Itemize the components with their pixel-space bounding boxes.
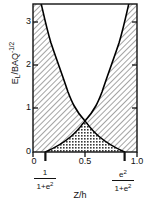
right-fraction-numerator-exponent: 2 [124,169,127,175]
left-fraction-numerator: 1 [28,168,62,177]
y-axis-label-superscript: -1/2 [8,42,15,53]
x-axis-label: Z/h [0,190,144,200]
y-axis-label-subscript: L [14,75,21,79]
annotation-left-fraction: 1 1+e2 [28,168,62,191]
y-axis-label-main: E [10,78,20,84]
x-tick-label-0-5: 0.5 [73,157,97,166]
y-tick-label-1: 1 [17,103,31,112]
left-fraction-denominator-exponent: 2 [50,181,53,187]
right-fraction-numerator: e2 [106,168,140,179]
physics-phase-diagram: EL/BAQ-1/2 3 2 1 0 0 0.5 1.0 1 1+e2 e2 1… [0,0,144,205]
right-fraction-bar [112,180,134,181]
y-tick-label-2: 2 [17,60,31,69]
left-fraction-bar [34,178,56,179]
x-tick-label-0: 0 [22,157,46,166]
right-fraction-denominator-exponent: 2 [128,183,131,189]
y-tick-label-3: 3 [17,17,31,26]
y-tick-label-0: 0 [17,147,31,156]
x-tick-label-1-0: 1.0 [125,157,144,166]
x-axis-label-text: Z/h [73,190,86,200]
